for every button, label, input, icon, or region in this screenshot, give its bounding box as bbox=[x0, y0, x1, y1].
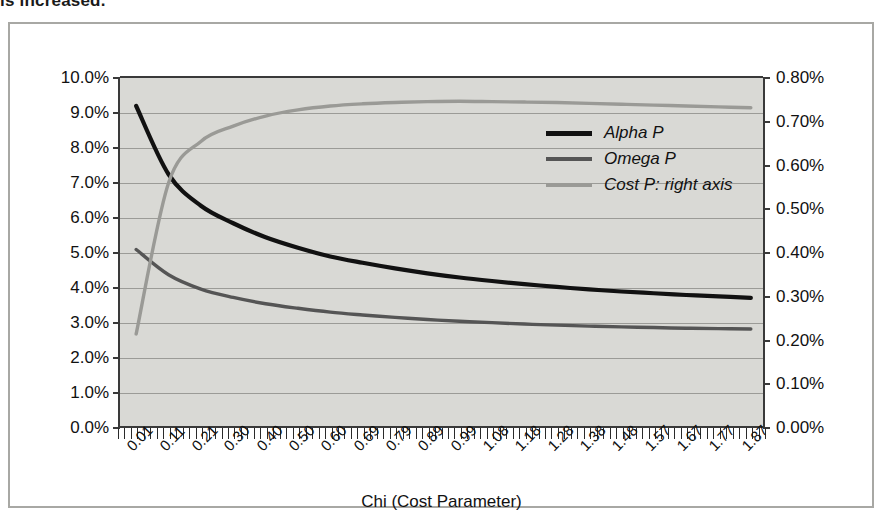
x-axis-minor-tick bbox=[480, 428, 481, 439]
y-axis-left-tick bbox=[113, 392, 120, 394]
x-axis-minor-tick bbox=[739, 428, 740, 439]
figure-frame: 0.0%1.0%2.0%3.0%4.0%5.0%6.0%7.0%8.0%9.0%… bbox=[8, 22, 874, 508]
x-axis-minor-tick bbox=[642, 428, 643, 439]
chart-legend: Alpha P Omega P Cost P: right axis bbox=[546, 120, 771, 198]
y-axis-right-tick bbox=[763, 340, 770, 342]
x-axis-minor-tick bbox=[545, 428, 546, 439]
x-axis-minor-tick bbox=[416, 428, 417, 439]
y-axis-left-label: 4.0% bbox=[70, 278, 109, 298]
y-axis-left-label: 8.0% bbox=[70, 138, 109, 158]
curve-omega-p bbox=[136, 250, 751, 329]
y-axis-right-tick bbox=[763, 296, 770, 298]
x-axis-minor-tick bbox=[448, 428, 449, 439]
x-axis-minor-tick bbox=[707, 428, 708, 439]
y-axis-right-label: 0.10% bbox=[776, 374, 824, 394]
x-axis-minor-tick bbox=[222, 428, 223, 439]
x-axis-minor-tick bbox=[319, 428, 320, 439]
y-axis-right-label: 0.20% bbox=[776, 331, 824, 351]
y-axis-left-tick bbox=[113, 357, 120, 359]
x-axis-minor-tick bbox=[286, 428, 287, 439]
y-axis-right-tick bbox=[763, 383, 770, 385]
y-axis-right-label: 0.00% bbox=[776, 418, 824, 438]
y-axis-left-tick bbox=[113, 322, 120, 324]
x-axis-minor-tick bbox=[124, 428, 125, 439]
legend-swatch-omega-p bbox=[546, 157, 592, 161]
y-axis-right-label: 0.60% bbox=[776, 156, 824, 176]
x-axis-minor-tick bbox=[674, 428, 675, 439]
x-axis-minor-tick bbox=[351, 428, 352, 439]
legend-label-omega-p: Omega P bbox=[604, 149, 676, 169]
caption-fragment: is increased. bbox=[0, 0, 300, 13]
y-axis-left-label: 0.0% bbox=[70, 418, 109, 438]
y-axis-right-label: 0.80% bbox=[776, 68, 824, 88]
y-axis-right-label: 0.50% bbox=[776, 199, 824, 219]
y-axis-right-tick bbox=[763, 77, 770, 79]
x-axis-minor-tick bbox=[577, 428, 578, 439]
x-axis-minor-tick bbox=[118, 428, 119, 439]
y-axis-left-tick bbox=[113, 217, 120, 219]
y-axis-right-label: 0.40% bbox=[776, 243, 824, 263]
x-axis-minor-tick bbox=[513, 428, 514, 439]
y-axis-left-label: 5.0% bbox=[70, 243, 109, 263]
x-axis-title: Chi (Cost Parameter) bbox=[118, 492, 765, 512]
legend-swatch-alpha-p bbox=[546, 131, 592, 136]
y-axis-left-tick bbox=[113, 182, 120, 184]
y-axis-left-tick bbox=[113, 77, 120, 79]
y-axis-left-tick bbox=[113, 252, 120, 254]
y-axis-left-label: 9.0% bbox=[70, 103, 109, 123]
y-axis-left-tick bbox=[113, 147, 120, 149]
x-axis-minor-tick bbox=[189, 428, 190, 439]
legend-item: Omega P bbox=[546, 146, 771, 172]
y-axis-left-label: 10.0% bbox=[61, 68, 109, 88]
y-axis-left-label: 7.0% bbox=[70, 173, 109, 193]
y-axis-left-tick bbox=[113, 112, 120, 114]
y-axis-left-label: 1.0% bbox=[70, 383, 109, 403]
x-axis-minor-tick bbox=[383, 428, 384, 439]
y-axis-right-tick bbox=[763, 252, 770, 254]
y-axis-right-tick bbox=[763, 208, 770, 210]
y-axis-left-label: 6.0% bbox=[70, 208, 109, 228]
y-axis-right-label: 0.30% bbox=[776, 287, 824, 307]
legend-swatch-cost-p bbox=[546, 183, 592, 187]
x-axis-minor-tick bbox=[157, 428, 158, 439]
y-axis-left-label: 3.0% bbox=[70, 313, 109, 333]
y-axis-left-tick bbox=[113, 287, 120, 289]
x-axis-minor-tick bbox=[610, 428, 611, 439]
legend-item: Alpha P bbox=[546, 120, 771, 146]
legend-label-alpha-p: Alpha P bbox=[604, 123, 664, 143]
y-axis-right-label: 0.70% bbox=[776, 112, 824, 132]
legend-item: Cost P: right axis bbox=[546, 172, 771, 198]
x-axis-minor-tick bbox=[254, 428, 255, 439]
y-axis-left-label: 2.0% bbox=[70, 348, 109, 368]
legend-label-cost-p: Cost P: right axis bbox=[604, 175, 733, 195]
